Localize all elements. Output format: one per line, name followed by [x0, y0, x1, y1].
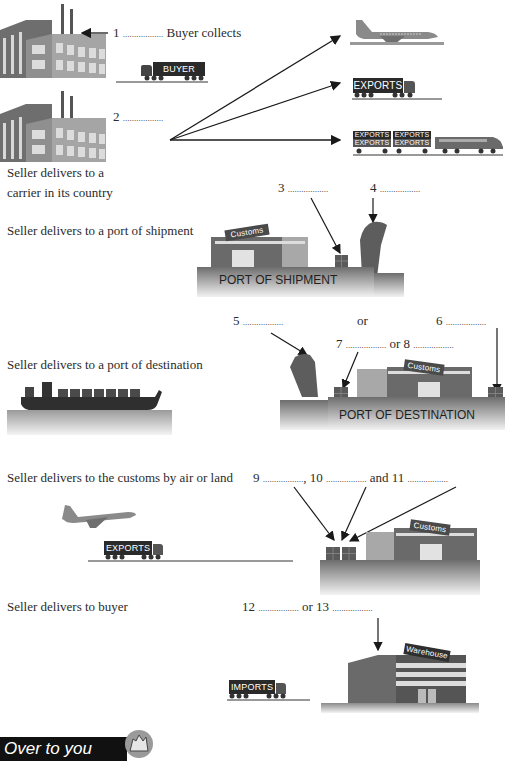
- locomotive-icon: [353, 131, 503, 157]
- answer-blank-10[interactable]: ..................: [326, 474, 367, 484]
- or-text: or: [357, 313, 368, 328]
- carrier-caption: Seller delivers to a carrier in its coun…: [7, 163, 113, 203]
- blank-number: 2: [113, 109, 120, 124]
- warehouse-icon: [318, 645, 483, 715]
- cargo-ship: [7, 380, 177, 435]
- blank-4-row: 4 ..................: [370, 180, 420, 197]
- truck-wheels-road: [88, 541, 298, 565]
- caption-line-1: Seller delivers to a: [7, 163, 113, 183]
- blank-1-row: 1 .................. Buyer collects: [113, 25, 241, 42]
- customs-scene: [318, 520, 483, 595]
- blank-number: 8: [404, 336, 411, 351]
- answer-blank-12[interactable]: ..................: [258, 603, 299, 613]
- or-text: or: [302, 599, 313, 614]
- factory-icon: [0, 88, 110, 163]
- deliver-to-buyer-caption: Seller delivers to buyer: [7, 599, 128, 614]
- blank-6-row: 6 ..................: [436, 313, 486, 330]
- blank-number: 9: [253, 470, 260, 485]
- answer-blank-4[interactable]: ..................: [380, 184, 421, 194]
- airplane-icon: [60, 505, 140, 533]
- port-label: PORT OF SHIPMENT: [219, 273, 337, 287]
- banner-text: Over to you: [4, 739, 92, 758]
- blank-7-8-row: 7 .................. or 8 ..............…: [336, 336, 454, 353]
- truck-wheels: [114, 60, 209, 84]
- truck-wheels: [227, 680, 312, 704]
- answer-blank-5[interactable]: ..................: [243, 317, 284, 327]
- answer-blank-1[interactable]: ..................: [123, 29, 164, 39]
- blank-12-13-row: 12 .................. or 13 ............…: [242, 599, 373, 616]
- answer-blank-2[interactable]: ..................: [123, 113, 164, 123]
- exports-truck-land: EXPORTS: [88, 541, 298, 565]
- blank-number: 7: [336, 336, 343, 351]
- warehouse-illustration: Warehouse: [318, 645, 483, 715]
- blank-number: 4: [370, 180, 377, 195]
- airplane-flying: [60, 505, 140, 533]
- answer-blank-11[interactable]: ..................: [408, 474, 449, 484]
- or-text: or: [390, 336, 401, 351]
- answer-blank-13[interactable]: ..................: [332, 603, 373, 613]
- answer-blank-9[interactable]: ..................: [263, 474, 304, 484]
- blank-9-10-11-row: 9 .................., 10 ...............…: [253, 470, 448, 487]
- factory-illustration-2: [0, 88, 110, 163]
- blank-number: 6: [436, 313, 443, 328]
- blank-number: 5: [233, 313, 240, 328]
- blank-number: 10: [310, 470, 323, 485]
- cargo-ship-icon: [7, 380, 177, 435]
- customs-air-land-caption: Seller delivers to the customs by air or…: [7, 470, 233, 485]
- airplane-transport: [350, 18, 445, 48]
- blank-3-row: 3 ..................: [278, 180, 328, 197]
- buyer-truck: BUYER: [114, 60, 209, 84]
- answer-blank-7[interactable]: ..................: [346, 340, 387, 350]
- hand-icon: [124, 729, 154, 759]
- customs-building-3: Customs: [318, 520, 483, 595]
- port-of-shipment-illustration: Customs PORT OF SHIPMENT: [197, 220, 407, 300]
- exports-truck: EXPORTS: [352, 78, 447, 102]
- port-of-destination-caption: Seller delivers to a port of destination: [7, 357, 203, 372]
- answer-blank-6[interactable]: ..................: [446, 317, 487, 327]
- blank-number: 3: [278, 180, 285, 195]
- port-of-shipment-caption: Seller delivers to a port of shipment: [7, 223, 193, 238]
- port-label: PORT OF DESTINATION: [339, 408, 475, 422]
- blank-5-row: 5 ..................: [233, 313, 283, 330]
- comma: ,: [303, 470, 306, 485]
- blank-2-row: 2 ..................: [113, 109, 163, 126]
- exports-train: EXPORTS EXPORTS EXPORTS EXPORTS: [353, 131, 503, 157]
- blank-number: 13: [316, 599, 329, 614]
- blank-number: 12: [242, 599, 255, 614]
- answer-blank-3[interactable]: ..................: [288, 184, 329, 194]
- imports-truck: IMPORTS: [227, 680, 312, 704]
- answer-blank-8[interactable]: ..................: [413, 340, 454, 350]
- over-to-you-banner: Over to you: [0, 737, 127, 761]
- airplane-icon: [350, 18, 445, 48]
- port-of-destination-illustration: Customs PORT OF DESTINATION: [280, 352, 505, 434]
- buyer-collects-text: Buyer collects: [167, 25, 242, 40]
- hand-icon-svg: [124, 729, 154, 759]
- caption-line-2: carrier in its country: [7, 183, 113, 203]
- blank-number: 1: [113, 25, 120, 40]
- blank-number: 11: [392, 470, 405, 485]
- truck-wheels: [352, 78, 447, 102]
- and-text: and: [370, 470, 389, 485]
